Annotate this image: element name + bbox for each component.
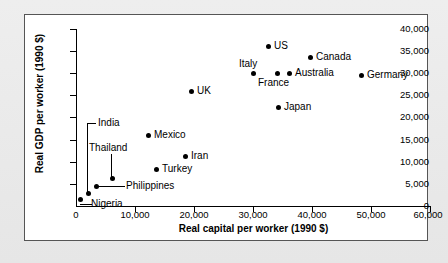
leader-line-thailand — [111, 154, 112, 178]
data-point-us[interactable] — [266, 44, 271, 49]
leader-line-india-vertical — [87, 123, 88, 193]
x-ticklabel-0: 0 — [50, 210, 102, 220]
y-tick-15000 — [70, 140, 76, 141]
y-axis-title: Real GDP per worker (1990 $) — [34, 24, 45, 184]
y-ticklabel-20000: 20,000 — [385, 112, 429, 121]
x-ticklabel-60000: 60,000 — [402, 210, 448, 220]
point-label-uk: UK — [197, 86, 211, 96]
point-label-philippines: Philippines — [126, 181, 174, 191]
point-label-thailand: Thailand — [89, 143, 127, 153]
point-label-nigeria: Nigeria — [91, 199, 123, 209]
point-label-france: France — [258, 78, 289, 88]
data-point-nigeria[interactable] — [78, 197, 83, 202]
y-tick-40000 — [70, 29, 76, 30]
figure-background: 40,000 35,000 30,000 25,000 20,000 15,00… — [0, 0, 448, 263]
y-tick-30000 — [70, 73, 76, 74]
x-ticklabel-40000: 40,000 — [286, 210, 338, 220]
y-tick-25000 — [70, 95, 76, 96]
y-axis-line — [76, 29, 77, 206]
y-ticklabel-40000: 40,000 — [385, 24, 429, 33]
data-point-mexico[interactable] — [146, 133, 151, 138]
y-tick-5000 — [70, 184, 76, 185]
data-point-uk[interactable] — [189, 89, 194, 94]
data-point-turkey[interactable] — [154, 167, 159, 172]
point-label-germany: Germany — [367, 70, 408, 80]
y-tick-35000 — [70, 51, 76, 52]
x-ticklabel-50000: 50,000 — [345, 210, 397, 220]
chart-panel: 40,000 35,000 30,000 25,000 20,000 15,00… — [24, 14, 428, 241]
y-ticklabel-5000: 5,000 — [385, 179, 429, 188]
data-point-japan[interactable] — [276, 105, 281, 110]
point-label-turkey: Turkey — [162, 164, 192, 174]
y-ticklabel-35000: 35,000 — [385, 46, 429, 55]
data-point-italy[interactable] — [251, 71, 256, 76]
point-label-japan: Japan — [284, 102, 311, 112]
x-ticklabel-10000: 10,000 — [109, 210, 161, 220]
x-axis-title: Real capital per worker (1990 $) — [76, 223, 431, 234]
y-ticklabel-15000: 15,000 — [385, 135, 429, 144]
data-point-iran[interactable] — [183, 154, 188, 159]
scatter-plot: 40,000 35,000 30,000 25,000 20,000 15,00… — [25, 15, 429, 242]
point-label-india: India — [98, 118, 120, 128]
y-ticklabel-10000: 10,000 — [385, 157, 429, 166]
data-point-australia[interactable] — [287, 71, 292, 76]
point-label-australia: Australia — [295, 68, 334, 78]
x-ticklabel-30000: 30,000 — [227, 210, 279, 220]
point-label-mexico: Mexico — [154, 130, 186, 140]
leader-line-philippines — [96, 186, 125, 187]
point-label-us: US — [274, 41, 288, 51]
y-tick-20000 — [70, 117, 76, 118]
point-label-italy: Italy — [239, 59, 257, 69]
y-tick-10000 — [70, 162, 76, 163]
leader-line-india-horizontal — [87, 123, 96, 124]
data-point-canada[interactable] — [308, 55, 313, 60]
data-point-germany[interactable] — [359, 73, 364, 78]
point-label-canada: Canada — [316, 52, 351, 62]
data-point-france[interactable] — [275, 71, 280, 76]
y-ticklabel-25000: 25,000 — [385, 90, 429, 99]
x-ticklabel-20000: 20,000 — [168, 210, 220, 220]
point-label-iran: Iran — [191, 151, 208, 161]
